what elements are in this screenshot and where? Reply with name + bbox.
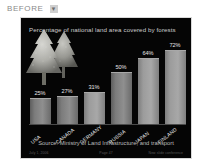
bar-value-label: 50% xyxy=(115,65,126,71)
bar-usa[interactable] xyxy=(30,98,51,124)
bar-group-japan[interactable]: 64% xyxy=(137,38,159,124)
footer-page-number: Page 47 xyxy=(99,151,112,155)
bar-group-canada[interactable]: 27% xyxy=(56,38,78,124)
source-note: Source: Ministry of Land Infrastructure,… xyxy=(21,140,191,146)
slide-footer: July 1, 2006 Page 47 New slide conferenc… xyxy=(21,147,191,158)
chevron-down-icon[interactable]: ▼ xyxy=(50,5,58,13)
bar-group-finland[interactable]: 72% xyxy=(164,38,186,124)
footer-event-name: New slide conference xyxy=(149,151,183,155)
bar-series: 25% 27% 31% 50% xyxy=(29,38,186,124)
bar-value-label: 25% xyxy=(34,91,45,97)
bar-group-usa[interactable]: 25% xyxy=(29,38,51,124)
bar-value-label: 27% xyxy=(61,89,72,95)
bar-russia[interactable] xyxy=(111,72,132,124)
bar-value-label: 72% xyxy=(169,43,180,49)
bar-germany[interactable] xyxy=(84,92,105,124)
bar-group-russia[interactable]: 50% xyxy=(110,38,132,124)
bar-group-germany[interactable]: 31% xyxy=(83,38,105,124)
screenshot-root: BEFORE ▼ xyxy=(0,0,201,165)
slide-frame: Percentage of national land area covered… xyxy=(20,17,192,159)
bar-finland[interactable] xyxy=(165,50,186,124)
footer-date: July 1, 2006 xyxy=(29,151,48,155)
bar-chart: 25% 27% 31% 50% xyxy=(29,38,186,124)
bar-value-label: 31% xyxy=(88,85,99,91)
bar-canada[interactable] xyxy=(57,96,78,124)
presentation-slide[interactable]: Percentage of national land area covered… xyxy=(21,18,191,158)
bar-value-label: 64% xyxy=(142,51,153,57)
slide-title: Percentage of national land area covered… xyxy=(29,26,185,33)
section-header: BEFORE ▼ xyxy=(0,0,201,17)
bar-japan[interactable] xyxy=(138,58,159,124)
page-title: BEFORE xyxy=(7,4,44,13)
